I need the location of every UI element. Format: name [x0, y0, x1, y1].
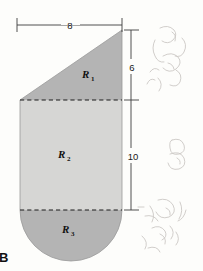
corner-mark-label: B [0, 250, 8, 265]
figure-canvas: 8 6 10 R 1 R 2 R 3 [0, 0, 203, 271]
geometry-figure: 8 6 10 R 1 R 2 R 3 [0, 0, 203, 271]
region-r3-subscript: 3 [71, 230, 75, 238]
region-r3-label: R [61, 223, 69, 235]
region-r2-shape [20, 100, 122, 210]
region-r2-label: R [57, 148, 65, 160]
dimension-width-label: 8 [67, 20, 72, 31]
region-r2-subscript: 2 [67, 155, 71, 163]
region-r1-subscript: 1 [91, 75, 95, 83]
region-r1-label: R [81, 68, 89, 80]
handwritten-annotations [138, 26, 186, 252]
dimension-six-label: 6 [129, 62, 134, 73]
dimension-ten-label: 10 [128, 151, 139, 162]
